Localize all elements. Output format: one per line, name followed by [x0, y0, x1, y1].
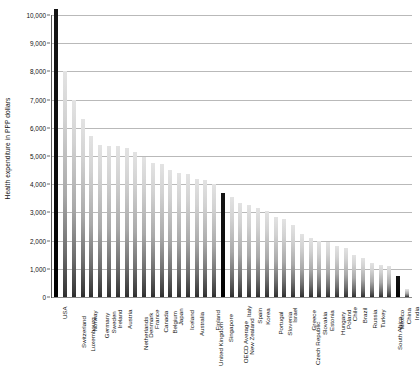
bar-slot[interactable]: [359, 15, 368, 297]
x-axis-label-slot: Italy: [236, 299, 245, 378]
bar-slot[interactable]: [201, 15, 210, 297]
bar[interactable]: [160, 164, 164, 297]
bar[interactable]: [361, 258, 365, 297]
bar[interactable]: [282, 219, 286, 297]
bar[interactable]: [265, 211, 269, 297]
bar[interactable]: [72, 100, 76, 297]
bar-slot[interactable]: [289, 15, 298, 297]
bar[interactable]: [151, 163, 155, 297]
x-axis-label-slot: USA: [52, 299, 61, 378]
bar-slot[interactable]: [341, 15, 350, 297]
bar-slot[interactable]: [192, 15, 201, 297]
bar[interactable]: [335, 246, 339, 297]
bar[interactable]: [405, 289, 409, 297]
bar-slot[interactable]: [148, 15, 157, 297]
bar[interactable]: [98, 145, 102, 297]
bar-slot[interactable]: [280, 15, 289, 297]
bar-slot[interactable]: [394, 15, 403, 297]
bar[interactable]: [177, 173, 181, 297]
y-axis-tick-mark: [47, 71, 50, 72]
bar[interactable]: [63, 71, 67, 297]
bar[interactable]: [256, 208, 260, 297]
bar-slot[interactable]: [183, 15, 192, 297]
bar[interactable]: [247, 205, 251, 297]
bar-slot[interactable]: [254, 15, 263, 297]
bar-slot[interactable]: [315, 15, 324, 297]
bar-slot[interactable]: [236, 15, 245, 297]
bar-slot[interactable]: [219, 15, 228, 297]
bar[interactable]: [168, 170, 172, 297]
bar-slot[interactable]: [368, 15, 377, 297]
bar[interactable]: [309, 238, 313, 297]
bar[interactable]: [81, 119, 85, 297]
bar-slot[interactable]: [61, 15, 70, 297]
bar[interactable]: [54, 9, 58, 297]
bar[interactable]: [107, 146, 111, 297]
bar-slot[interactable]: [70, 15, 79, 297]
bar-slot[interactable]: [324, 15, 333, 297]
bar[interactable]: [344, 248, 348, 297]
bar-slot[interactable]: [333, 15, 342, 297]
bar[interactable]: [274, 217, 278, 297]
bar[interactable]: [370, 263, 374, 297]
bar[interactable]: [133, 152, 137, 297]
y-axis-tick-mark: [47, 240, 50, 241]
bar-slot[interactable]: [175, 15, 184, 297]
bar-slot[interactable]: [297, 15, 306, 297]
x-axis-label-slot: Australia: [183, 299, 192, 378]
bar-slot[interactable]: [227, 15, 236, 297]
bar[interactable]: [125, 148, 129, 297]
x-axis-label-slot: Chile: [341, 299, 350, 378]
y-axis-tick-label: 1,000: [30, 265, 46, 272]
x-axis-label-slot: Brazil: [350, 299, 359, 378]
x-axis-label-slot: Korea: [254, 299, 263, 378]
y-axis-tick-label: 2,000: [30, 237, 46, 244]
bar[interactable]: [116, 146, 120, 297]
bar-slot[interactable]: [271, 15, 280, 297]
bar-slot[interactable]: [350, 15, 359, 297]
x-axis-label-slot: Austria: [113, 299, 122, 378]
bar-slot[interactable]: [157, 15, 166, 297]
y-axis-tick-label: 8,000: [30, 68, 46, 75]
bar-slot[interactable]: [262, 15, 271, 297]
bar-slot[interactable]: [385, 15, 394, 297]
bar-slot[interactable]: [96, 15, 105, 297]
bar[interactable]: [352, 255, 356, 297]
bar[interactable]: [89, 136, 93, 297]
bar[interactable]: [203, 180, 207, 297]
bar[interactable]: [396, 276, 400, 297]
x-axis-label-slot: Portugal: [262, 299, 271, 378]
bar-slot[interactable]: [403, 15, 412, 297]
bar-slot[interactable]: [122, 15, 131, 297]
x-axis-tick-label: India: [413, 307, 420, 320]
bar[interactable]: [195, 179, 199, 297]
bar[interactable]: [317, 241, 321, 297]
bar-slot[interactable]: [245, 15, 254, 297]
bar-slot[interactable]: [166, 15, 175, 297]
bar-slot[interactable]: [52, 15, 61, 297]
bar[interactable]: [300, 234, 304, 297]
bar[interactable]: [238, 203, 242, 297]
bar[interactable]: [230, 197, 234, 297]
bar-slot[interactable]: [78, 15, 87, 297]
bar-slot[interactable]: [140, 15, 149, 297]
bar[interactable]: [142, 157, 146, 297]
bar-slot[interactable]: [306, 15, 315, 297]
bar-slot[interactable]: [105, 15, 114, 297]
bar[interactable]: [291, 225, 295, 297]
bar[interactable]: [326, 242, 330, 297]
bar[interactable]: [212, 184, 216, 297]
bar-slot[interactable]: [210, 15, 219, 297]
bar-slot[interactable]: [376, 15, 385, 297]
bar[interactable]: [379, 265, 383, 297]
x-axis-label-slot: Iceland: [175, 299, 184, 378]
y-axis-tick-mark: [47, 99, 50, 100]
bar[interactable]: [387, 266, 391, 297]
bar-slot[interactable]: [87, 15, 96, 297]
bar[interactable]: [221, 193, 225, 297]
bar[interactable]: [186, 174, 190, 297]
y-axis-tick-mark: [47, 212, 50, 213]
bar-slot[interactable]: [131, 15, 140, 297]
bar-slot[interactable]: [113, 15, 122, 297]
x-axis-label-slot: Switzerland: [61, 299, 70, 378]
